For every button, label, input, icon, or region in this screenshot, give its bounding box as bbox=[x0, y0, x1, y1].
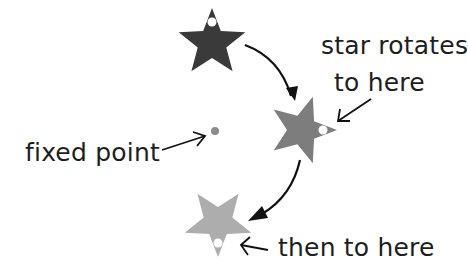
then-pointer-arrow bbox=[241, 237, 268, 255]
star-original bbox=[179, 8, 246, 71]
star-shape bbox=[185, 194, 252, 257]
fixed-point-pointer-arrow bbox=[162, 132, 205, 150]
star-marker-hole bbox=[214, 239, 223, 248]
rotates-pointer-arrow bbox=[338, 99, 371, 121]
rotation-arrow-1 bbox=[245, 45, 298, 101]
star-shape bbox=[274, 97, 337, 164]
star-marker-hole bbox=[319, 126, 328, 135]
rotation-arrow-2 bbox=[248, 160, 300, 221]
star-rotates-label-line1: star rotates bbox=[321, 33, 468, 58]
star-rotates-label-line2: to here bbox=[334, 70, 425, 95]
star-rotated-once bbox=[274, 97, 337, 164]
rotation-diagram: fixed point star rotates to here then to… bbox=[0, 0, 468, 269]
fixed-point-label: fixed point bbox=[25, 140, 160, 165]
fixed-point-dot bbox=[211, 127, 219, 135]
star-marker-hole bbox=[208, 18, 217, 27]
then-to-here-label: then to here bbox=[278, 235, 435, 260]
star-rotated-twice bbox=[185, 194, 252, 257]
star-shape bbox=[179, 8, 246, 71]
